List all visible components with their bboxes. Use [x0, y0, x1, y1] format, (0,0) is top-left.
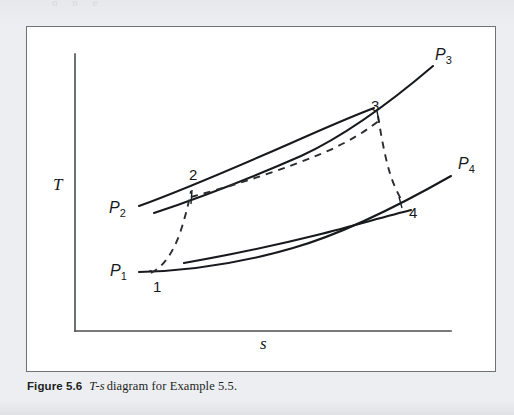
state-point-label-2: 2 — [189, 166, 197, 183]
state-2-tick — [191, 190, 192, 204]
ts-diagram-plot: TsP1P2P3P41234 — [27, 27, 495, 371]
state-point-label-3: 3 — [371, 97, 379, 114]
x-axis-label: s — [260, 334, 267, 353]
figure-frame: TsP1P2P3P41234 — [26, 26, 496, 372]
scan-vignette-bottom — [0, 401, 514, 415]
curve-isobar-P3 — [154, 66, 433, 213]
pressure-label-p2: P2 — [109, 199, 126, 219]
caption-ts-italic: T-s — [82, 379, 105, 393]
y-axis-label: T — [53, 175, 64, 194]
pressure-label-p4: P4 — [458, 155, 475, 175]
state-point-label-1: 1 — [153, 278, 161, 295]
curve-process-3-4-actual — [378, 116, 401, 199]
cropped-text-remnant: o n e — [52, 0, 432, 8]
caption-text: diagram for Example 5.5. — [106, 379, 237, 393]
state-point-label-4: 4 — [409, 204, 417, 221]
pressure-label-p3: P3 — [435, 46, 452, 66]
curve-process-2-3-actual — [191, 119, 381, 197]
curve-isobar-P1-lower — [139, 176, 451, 272]
figure-caption: Figure 5.6T-sdiagram for Example 5.5. — [27, 379, 237, 394]
curve-isobar-P2-upper — [139, 108, 374, 206]
pressure-label-p1: P1 — [110, 262, 127, 282]
curve-isobar-P4-lower-inner — [184, 210, 411, 263]
caption-figure-number: Figure 5.6 — [27, 380, 82, 392]
